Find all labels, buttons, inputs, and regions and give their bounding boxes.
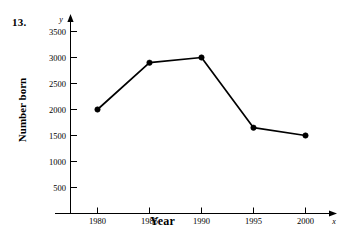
data-point-1980 xyxy=(95,107,100,112)
y-axis-arrow-icon xyxy=(67,14,73,22)
data-point-2000 xyxy=(303,133,308,138)
x-tick-label-1980: 1980 xyxy=(89,216,106,226)
y-axis-letter: y xyxy=(58,15,63,24)
y-tick-label-3000: 3000 xyxy=(49,53,66,63)
x-tick-label-1990: 1990 xyxy=(193,216,210,226)
data-line-number-born xyxy=(98,58,306,136)
line-chart-plot: y x 3500 3000 2500 2000 1500 1000 500 19… xyxy=(0,0,359,233)
data-point-1995 xyxy=(251,125,256,130)
x-tick-label-1985: 1985 xyxy=(141,216,158,226)
data-markers xyxy=(95,55,308,138)
y-tick-label-1000: 1000 xyxy=(49,157,66,167)
x-axis-arrow-icon xyxy=(329,210,337,216)
y-tick-label-2000: 2000 xyxy=(49,105,66,115)
x-tick-label-2000: 2000 xyxy=(297,216,314,226)
y-tick-label-1500: 1500 xyxy=(49,131,66,141)
y-tick-label-500: 500 xyxy=(53,183,66,193)
x-tick-label-1995: 1995 xyxy=(245,216,262,226)
y-axis-ticks: 3500 3000 2500 2000 1500 1000 500 xyxy=(49,27,77,193)
y-tick-label-3500: 3500 xyxy=(49,27,66,37)
data-point-1990 xyxy=(199,55,204,60)
x-axis-letter: x xyxy=(331,217,336,226)
figure-container: 13. Number born Year y x 3500 3000 2500 … xyxy=(0,0,359,233)
y-tick-label-2500: 2500 xyxy=(49,79,66,89)
data-point-1985 xyxy=(147,60,152,65)
x-axis-ticks: 1980 1985 1990 1995 2000 xyxy=(89,208,314,227)
